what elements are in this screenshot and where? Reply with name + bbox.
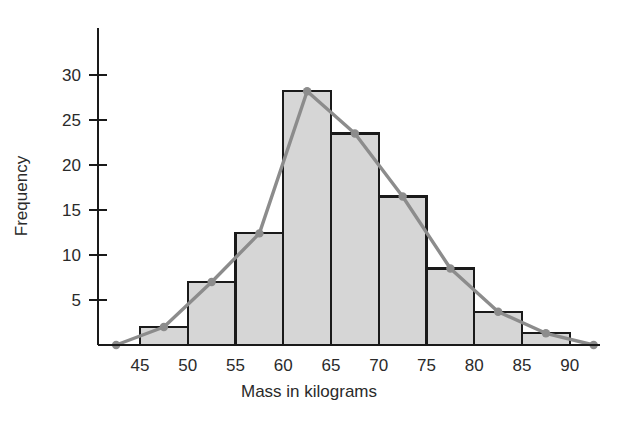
histogram-bar (474, 312, 522, 345)
y-tick-labels-group: 51015202530 (62, 66, 81, 310)
plot-area: 51015202530 45505560657075808590 (0, 0, 618, 434)
bars-group (140, 91, 570, 345)
polygon-data-point (160, 323, 168, 331)
polygon-data-point (303, 87, 311, 95)
x-tick-label: 65 (322, 356, 341, 375)
x-tick-label: 50 (178, 356, 197, 375)
x-tick-labels-group: 45505560657075808590 (131, 356, 580, 375)
y-axis-label-container: Frequency (0, 120, 40, 280)
y-axis-label: Frequency (12, 136, 32, 256)
x-tick-label: 80 (465, 356, 484, 375)
x-tick-label: 70 (369, 356, 388, 375)
x-tick-label: 45 (131, 356, 150, 375)
polygon-data-point (255, 229, 263, 237)
histogram-bar (331, 134, 379, 346)
polygon-data-point (542, 329, 550, 337)
histogram-bar (283, 91, 331, 345)
histogram-bar (427, 269, 475, 346)
x-tick-label: 55 (226, 356, 245, 375)
y-tick-label: 5 (72, 291, 81, 310)
x-tick-label: 85 (513, 356, 532, 375)
x-tick-label: 75 (417, 356, 436, 375)
polygon-data-point (398, 192, 406, 200)
polygon-data-point (207, 278, 215, 286)
polygon-data-point (494, 308, 502, 316)
x-axis-label: Mass in kilograms (0, 382, 618, 402)
y-tick-label: 30 (62, 66, 81, 85)
histogram-figure: Frequency Mass in kilograms 51015202530 … (0, 0, 618, 434)
x-tick-label: 90 (560, 356, 579, 375)
histogram-bar (188, 282, 236, 345)
y-tick-label: 10 (62, 246, 81, 265)
x-tick-label: 60 (274, 356, 293, 375)
y-tick-label: 20 (62, 156, 81, 175)
y-tick-label: 25 (62, 111, 81, 130)
polygon-data-point (446, 264, 454, 272)
y-tick-label: 15 (62, 201, 81, 220)
polygon-data-point (351, 129, 359, 137)
